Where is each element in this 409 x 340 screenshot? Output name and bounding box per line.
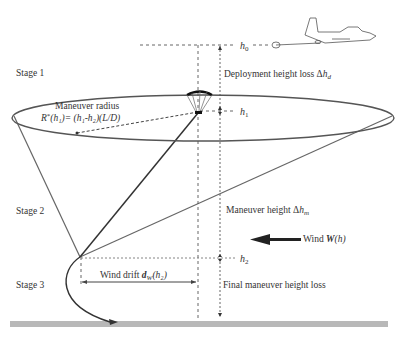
radius-end-dot [76,132,79,135]
h2-arrow-up [218,254,222,257]
wind-arrow-head [250,234,270,245]
stage2-label: Stage 2 [16,206,44,216]
wind-drift-arrow-right [191,280,196,284]
final-maneuver-label: Final maneuver height loss [223,280,326,290]
wind-drift-arrow-left [82,280,87,284]
diagram-svg: Stage 1 Stage 2 Stage 3 h0 h1 h2 Deploym… [0,0,409,340]
h1-arrow-down [218,112,222,115]
cone-left-line [14,116,80,257]
wind-drift-label: Wind drift dW(h₂) [100,270,167,282]
h0-label: h0 [240,40,249,53]
ground-arrow [218,313,222,317]
deployment-height-loss-label: Deployment height loss Δhd [224,69,331,81]
maneuver-height-label: Maneuver height Δhm [226,205,309,217]
maneuver-radius-title: Maneuver radius [55,101,119,111]
h0-arrow [218,46,222,50]
stage3-label: Stage 3 [16,280,44,290]
maneuver-radius-formula: R*(h₁)= (h₁-h₂)(L/D) [40,112,120,124]
wind-arrow-shaft [265,238,301,241]
parachute-trajectory-diagram: Stage 1 Stage 2 Stage 3 h0 h1 h2 Deploym… [0,0,409,340]
h2-label: h2 [240,253,249,266]
ground [10,321,388,327]
final-maneuver-curve [66,257,110,322]
stage1-label: Stage 1 [16,68,44,78]
h1-arrow-up [218,106,222,110]
glide-path-line [80,113,198,257]
airplane-icon [272,18,376,48]
h2-arrow-down [218,259,222,262]
wind-label: Wind W(h) [303,234,346,245]
h1-label: h1 [240,106,249,119]
